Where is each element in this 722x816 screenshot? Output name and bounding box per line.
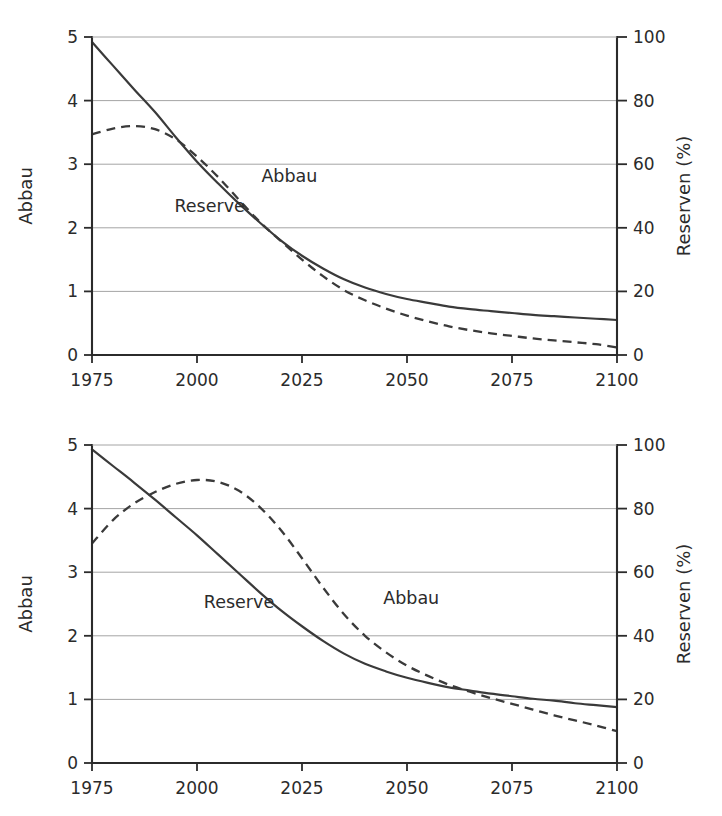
ticks-bottom	[84, 445, 627, 771]
chart-panel-bottom: 0123450204060801001975200020252050207521…	[0, 408, 722, 816]
series-line-abbau	[92, 126, 617, 347]
series-line-abbau	[92, 480, 617, 731]
tick-labels-bottom: 0123450204060801001975200020252050207521…	[67, 435, 665, 798]
xtick-label-2000: 2000	[175, 778, 218, 798]
series-annotation-abbau: Abbau	[383, 588, 439, 608]
series-annotation-reserve: Reserve	[174, 196, 244, 216]
ytick-label-left-1: 1	[67, 281, 78, 301]
ytick-label-left-1: 1	[67, 689, 78, 709]
y-axis-title-left-top: Abbau	[15, 167, 36, 225]
xtick-label-2025: 2025	[280, 778, 323, 798]
gridlines-bottom	[92, 509, 617, 700]
ytick-label-right-40: 40	[633, 626, 655, 646]
xtick-label-2075: 2075	[490, 370, 533, 390]
y-axis-title-right-bottom: Reserven (%)	[673, 544, 694, 665]
annotations-bottom: ReserveAbbau	[204, 588, 439, 612]
chart-panel-top: 0123450204060801001975200020252050207521…	[0, 0, 722, 408]
ytick-label-right-20: 20	[633, 281, 655, 301]
xtick-label-1975: 1975	[70, 778, 113, 798]
y-axis-title-right-top: Reserven (%)	[673, 136, 694, 257]
ytick-label-right-80: 80	[633, 91, 655, 111]
xtick-label-2000: 2000	[175, 370, 218, 390]
ytick-label-left-0: 0	[67, 345, 78, 365]
figure-root: 0123450204060801001975200020252050207521…	[0, 0, 722, 816]
ytick-label-right-60: 60	[633, 154, 655, 174]
series-annotation-abbau: Abbau	[261, 166, 317, 186]
ytick-label-left-2: 2	[67, 218, 78, 238]
series-group-top	[92, 42, 617, 347]
xtick-label-2050: 2050	[385, 778, 428, 798]
ticks-top	[84, 37, 627, 363]
axes-bottom	[92, 445, 617, 763]
xtick-label-2075: 2075	[490, 778, 533, 798]
ytick-label-left-0: 0	[67, 753, 78, 773]
xtick-label-2025: 2025	[280, 370, 323, 390]
xtick-label-2100: 2100	[595, 778, 638, 798]
chart-svg-top: 0123450204060801001975200020252050207521…	[0, 0, 722, 408]
ytick-label-left-4: 4	[67, 91, 78, 111]
ytick-label-left-5: 5	[67, 435, 78, 455]
series-group-bottom	[92, 449, 617, 731]
xtick-label-2050: 2050	[385, 370, 428, 390]
series-line-reserve	[92, 449, 617, 707]
ytick-label-right-20: 20	[633, 689, 655, 709]
ytick-label-right-100: 100	[633, 27, 665, 47]
ytick-label-right-60: 60	[633, 562, 655, 582]
tick-labels-top: 0123450204060801001975200020252050207521…	[67, 27, 665, 390]
series-annotation-reserve: Reserve	[204, 592, 274, 612]
ytick-label-left-2: 2	[67, 626, 78, 646]
ytick-label-right-40: 40	[633, 218, 655, 238]
ytick-label-right-0: 0	[633, 345, 644, 365]
ytick-label-right-0: 0	[633, 753, 644, 773]
ytick-label-right-100: 100	[633, 435, 665, 455]
ytick-label-left-3: 3	[67, 154, 78, 174]
y-axis-title-left-bottom: Abbau	[15, 575, 36, 633]
ytick-label-right-80: 80	[633, 499, 655, 519]
series-line-reserve	[92, 42, 617, 320]
ytick-label-left-4: 4	[67, 499, 78, 519]
ytick-label-left-5: 5	[67, 27, 78, 47]
axes-top	[92, 37, 617, 355]
xtick-label-1975: 1975	[70, 370, 113, 390]
xtick-label-2100: 2100	[595, 370, 638, 390]
ytick-label-left-3: 3	[67, 562, 78, 582]
gridlines-top	[92, 101, 617, 292]
chart-svg-bottom: 0123450204060801001975200020252050207521…	[0, 408, 722, 816]
